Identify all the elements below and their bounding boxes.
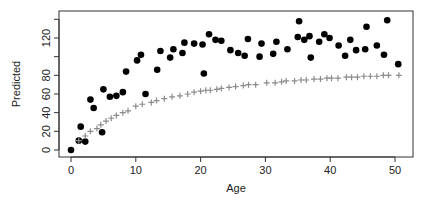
- data-point: [138, 52, 145, 59]
- data-point: [107, 94, 114, 101]
- data-point: [245, 36, 252, 43]
- data-point: [77, 123, 84, 130]
- data-point: [270, 51, 277, 58]
- data-point: [363, 24, 370, 31]
- data-point: [99, 129, 106, 136]
- x-tick-label: 20: [194, 164, 206, 176]
- data-point: [181, 39, 188, 46]
- data-point: [120, 89, 127, 96]
- data-point: [134, 57, 141, 64]
- data-point: [218, 38, 225, 45]
- data-point: [170, 46, 177, 53]
- data-point: [179, 50, 186, 57]
- data-point: [100, 86, 107, 93]
- data-point: [256, 53, 263, 60]
- data-point: [191, 40, 198, 47]
- data-point: [113, 93, 120, 100]
- scatter-chart: 01020304050 020406080120 Age Predicted: [0, 0, 433, 204]
- data-point: [347, 37, 354, 44]
- y-tick-label: 40: [40, 107, 52, 119]
- data-point: [212, 37, 219, 44]
- data-point: [273, 38, 280, 45]
- data-point: [295, 34, 302, 41]
- data-point: [157, 48, 164, 55]
- data-point: [227, 47, 234, 54]
- data-point: [353, 47, 360, 54]
- data-point: [307, 54, 314, 61]
- y-tick-label: 20: [40, 125, 52, 137]
- data-point: [199, 41, 206, 48]
- data-point: [395, 61, 402, 68]
- data-point: [258, 40, 265, 47]
- y-tick-label: 120: [40, 29, 52, 47]
- x-axis: 01020304050: [68, 157, 401, 176]
- data-point: [68, 147, 75, 154]
- x-tick-label: 40: [324, 164, 336, 176]
- data-point: [235, 50, 242, 57]
- x-tick-label: 30: [259, 164, 271, 176]
- data-point: [154, 66, 161, 73]
- y-axis-label: Predicted: [10, 61, 22, 107]
- data-point: [87, 96, 94, 103]
- x-tick-label: 10: [130, 164, 142, 176]
- data-point: [241, 52, 248, 59]
- data-point: [316, 38, 323, 45]
- x-axis-label: Age: [226, 182, 246, 194]
- data-point: [381, 52, 388, 59]
- y-axis: 020406080120: [40, 19, 59, 153]
- data-point: [201, 70, 208, 77]
- data-point: [335, 42, 342, 49]
- data-point: [342, 52, 349, 59]
- y-tick-label: 80: [40, 69, 52, 81]
- data-point: [123, 68, 130, 75]
- data-point: [142, 91, 149, 98]
- data-point: [362, 46, 369, 53]
- data-point: [374, 42, 381, 49]
- y-tick-label: 60: [40, 88, 52, 100]
- data-point: [296, 18, 303, 25]
- data-point: [167, 54, 174, 61]
- data-point: [284, 46, 291, 53]
- y-tick-label: 0: [40, 147, 52, 153]
- data-point: [82, 138, 89, 145]
- data-point: [384, 17, 391, 24]
- data-point: [90, 105, 97, 112]
- data-point: [306, 33, 313, 40]
- x-tick-label: 0: [68, 164, 74, 176]
- x-tick-label: 50: [389, 164, 401, 176]
- data-point: [206, 31, 213, 38]
- data-point: [326, 35, 333, 42]
